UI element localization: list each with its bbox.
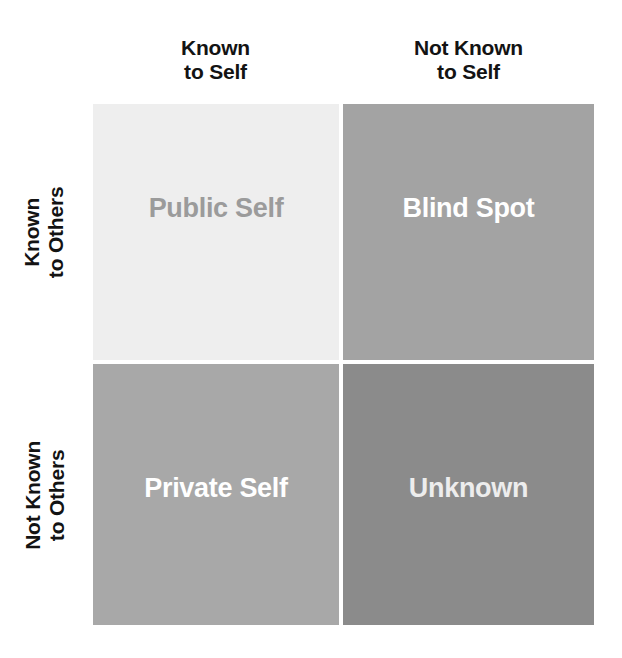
quadrant-label-blind-spot: Blind Spot [403, 193, 535, 224]
quadrant-label-public-self: Public Self [149, 193, 284, 224]
column-header-not-known-to-self-line1: Not Known [414, 36, 523, 60]
row-header-not-known-to-others-line1: Not Known [21, 441, 45, 550]
johari-window-diagram: Known to Self Not Known to Self Known to… [0, 0, 622, 658]
row-header-known-to-others: Known to Others [0, 104, 90, 360]
quadrant-blind-spot: Blind Spot [343, 104, 594, 360]
column-header-known-to-self-line1: Known [181, 36, 250, 60]
column-header-not-known-to-self-line2: to Self [437, 60, 500, 84]
quadrant-label-unknown: Unknown [409, 473, 528, 504]
column-header-known-to-self: Known to Self [93, 36, 338, 96]
quadrant-public-self: Public Self [93, 104, 339, 360]
quadrant-unknown: Unknown [343, 364, 594, 625]
row-header-known-to-others-line1: Known [21, 186, 45, 278]
quadrant-label-private-self: Private Self [144, 473, 287, 504]
row-header-known-to-others-line2: to Others [45, 186, 69, 278]
row-header-not-known-to-others-line2: to Others [45, 441, 69, 550]
quadrant-private-self: Private Self [93, 364, 339, 625]
column-header-known-to-self-line2: to Self [184, 60, 247, 84]
row-header-not-known-to-others: Not Known to Others [0, 366, 90, 625]
quadrant-grid: Public Self Blind Spot Private Self Unkn… [93, 104, 594, 625]
column-header-not-known-to-self: Not Known to Self [343, 36, 594, 96]
